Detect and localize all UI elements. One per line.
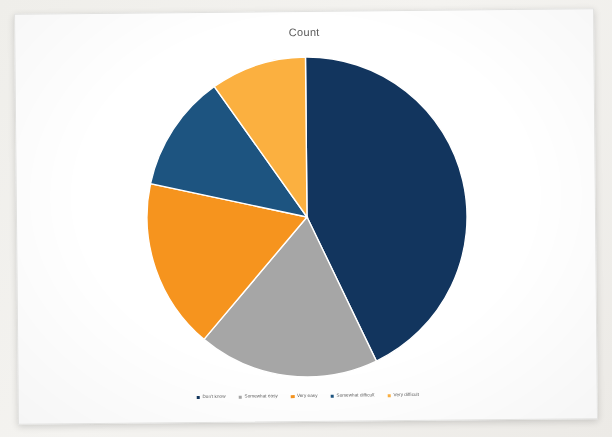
pie-slice-group (145, 55, 468, 378)
legend-item-label: Somewhat easy (245, 395, 278, 400)
legend-item-label: Very easy (297, 394, 318, 399)
pie-chart-svg (15, 9, 597, 424)
legend-swatch-icon (291, 395, 295, 399)
legend-swatch-icon (196, 396, 200, 400)
legend-swatch-icon (388, 394, 392, 398)
chart-card: Count Don't knowSomewhat easyVery easySo… (14, 8, 598, 425)
screenshot-root: Count Don't knowSomewhat easyVery easySo… (0, 0, 612, 437)
legend-item-label: Don't know (202, 395, 225, 400)
legend-swatch-icon (330, 395, 334, 399)
legend-item-label: Very difficult (394, 393, 419, 398)
legend-item[interactable]: Very easy (291, 394, 318, 399)
legend-item-label: Somewhat difficult (336, 394, 374, 399)
pie-chart (15, 9, 597, 424)
chart-card-inner: Count Don't knowSomewhat easyVery easySo… (15, 9, 597, 424)
legend-item[interactable]: Somewhat difficult (330, 394, 374, 399)
legend-item[interactable]: Very difficult (388, 393, 419, 398)
legend-swatch-icon (239, 396, 243, 400)
legend-item[interactable]: Somewhat easy (239, 395, 278, 400)
legend-item[interactable]: Don't know (196, 395, 225, 400)
